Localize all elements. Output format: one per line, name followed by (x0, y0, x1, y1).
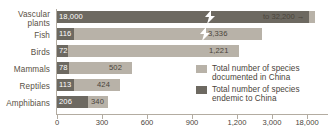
legend-swatch-total (196, 65, 207, 73)
x-axis-tick-label: 600 (141, 118, 154, 127)
bar-value-endemic: 206 (59, 97, 72, 107)
bar-value-endemic: 116 (59, 29, 71, 39)
x-axis-tick-label: 18,000 (295, 118, 318, 127)
bar-total (57, 28, 262, 40)
category-label: Reptiles (20, 82, 50, 91)
category-label: Amphibians (6, 99, 50, 108)
x-axis-tick-label: 300 (96, 118, 109, 127)
category-label: Mammals (14, 65, 50, 74)
category-label: Fish (34, 31, 50, 40)
plot-area: 18,000 to 32,200 → 116 3,336 72 1,221 (56, 9, 328, 115)
category-axis-labels: Vascular plants Fish Birds Mammals Repti… (0, 10, 53, 114)
bar-value-endemic: 18,000 (59, 12, 83, 22)
bar-value-total: 340 (91, 97, 104, 107)
category-label: Birds (31, 48, 50, 57)
legend-label: Total number of species documented in Ch… (212, 64, 332, 83)
legend-item: Total number of species endemic to China (196, 85, 332, 104)
legend-label: Total number of species endemic to China (212, 85, 332, 104)
bar-value-total: 1,221 (209, 46, 229, 56)
legend-swatch-endemic (196, 86, 207, 94)
axis-break-icon (204, 10, 217, 24)
x-axis-tick-label: 3,000 (262, 118, 281, 127)
x-axis-tick-label: 0 (55, 118, 59, 127)
bar-value-endemic: 78 (59, 63, 68, 73)
bar-value-total: to 32,200 → (263, 12, 304, 22)
bar-value-total: 3,336 (208, 29, 228, 39)
x-axis-tick-label: 1,200 (227, 118, 246, 127)
legend-item: Total number of species documented in Ch… (196, 64, 332, 83)
species-bar-chart: Vascular plants Fish Birds Mammals Repti… (0, 0, 335, 137)
bar-value-total: 424 (97, 80, 110, 90)
bar-value-total: 502 (109, 63, 122, 73)
x-axis-tick-label: 900 (186, 118, 199, 127)
bar-value-endemic: 72 (59, 46, 68, 56)
chart-legend: Total number of species documented in Ch… (196, 64, 332, 106)
bar-value-endemic: 113 (59, 80, 71, 90)
category-label: Vascular plants (18, 10, 50, 28)
